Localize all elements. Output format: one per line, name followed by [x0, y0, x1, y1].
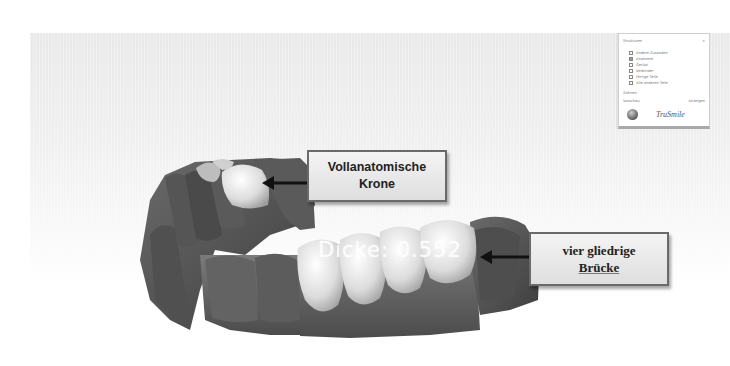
structure-label: Verbinder — [636, 69, 653, 73]
structure-label: Gerüst — [636, 63, 648, 67]
checkbox[interactable] — [629, 75, 633, 79]
structure-label: Anatomie — [636, 57, 653, 61]
checkbox[interactable] — [629, 63, 633, 67]
panel-header[interactable]: Strukturen × — [623, 39, 705, 45]
callout-bridge-line1: vier gliedrige — [531, 242, 667, 259]
checkbox[interactable] — [629, 51, 633, 55]
thickness-measurement-label: Dicke: 0.552 — [318, 238, 462, 262]
checkbox[interactable] — [629, 69, 633, 73]
panel-footer: TruSmile — [623, 106, 705, 122]
checkbox[interactable] — [629, 57, 633, 61]
trusmile-logo-icon — [627, 109, 638, 120]
structure-label: Andere Zusanden — [636, 51, 668, 55]
panel-toggle-row: Vorschau Anzeigen — [623, 99, 705, 103]
show-toggle[interactable]: Anzeigen — [688, 99, 705, 103]
section-structures-title[interactable]: Strukturen — [623, 39, 642, 45]
structures-list: Andere Zusanden Anatomie Gerüst Verbinde… — [629, 50, 668, 86]
preview-toggle[interactable]: Vorschau — [623, 99, 639, 103]
callout-bridge-line2: Brücke — [531, 259, 667, 276]
callout-crown-line1: Vollanatomische — [309, 159, 445, 176]
callout-crown: Vollanatomische Krone — [307, 150, 447, 202]
section-tools[interactable]: Zahnen — [623, 91, 637, 95]
callout-bridge: vier gliedrige Brücke — [529, 232, 669, 286]
callout-crown-line2: Krone — [309, 176, 445, 193]
checkbox[interactable] — [629, 81, 633, 85]
structure-label: Fertige Teile — [636, 75, 658, 79]
close-icon[interactable]: × — [702, 39, 705, 45]
brand-name: TruSmile — [656, 110, 685, 119]
structure-label: Alle anderen Teile — [636, 81, 668, 85]
structures-panel: Strukturen × Andere Zusanden Anatomie Ge… — [618, 33, 710, 129]
structure-item[interactable]: Alle anderen Teile — [629, 80, 668, 86]
